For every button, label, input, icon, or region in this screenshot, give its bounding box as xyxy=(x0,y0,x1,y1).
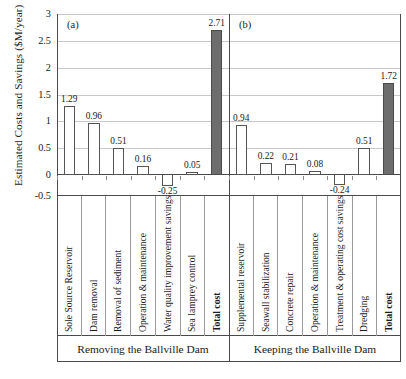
x-axis-tick xyxy=(131,176,132,180)
x-axis-tick xyxy=(229,176,230,180)
category-label: Removal of sediment xyxy=(113,250,123,332)
y-axis-tick: 3 xyxy=(46,9,51,19)
panel-tag: (b) xyxy=(239,19,251,30)
category-label: Supplemental reservoir xyxy=(235,243,245,332)
category-label: Total cost xyxy=(384,293,394,332)
y-axis-tick: 2 xyxy=(46,63,51,73)
x-axis-tick xyxy=(303,176,304,180)
bar-value-label: 0.94 xyxy=(233,114,249,123)
category-label-cell: Concrete repair xyxy=(278,196,303,336)
category-label-grid: Supplemental reservoirSeawall stabilizat… xyxy=(229,196,401,336)
bar xyxy=(309,171,320,175)
bar xyxy=(88,123,99,175)
bar-value-label: 0.51 xyxy=(110,137,126,146)
category-label: Dredging xyxy=(359,296,369,332)
category-label: Sea lamprey control xyxy=(187,255,197,332)
category-label: Water quality improvement savings xyxy=(162,196,172,332)
x-axis-tick xyxy=(106,176,107,180)
category-label-cell: Removal of sediment xyxy=(106,196,131,336)
bar-value-label: 0.22 xyxy=(258,152,274,161)
bar-total xyxy=(211,30,222,175)
bar-value-label: 0.21 xyxy=(282,153,298,162)
bar xyxy=(162,175,173,186)
y-axis-tick: 1.5 xyxy=(38,90,51,100)
category-label-cell: Total cost xyxy=(377,196,401,336)
x-axis-tick xyxy=(180,176,181,180)
bar-value-label: 0.08 xyxy=(307,160,323,169)
bar xyxy=(334,175,345,185)
category-label-cell: Dam removal xyxy=(82,196,107,336)
category-label: Operation & maintenance xyxy=(138,233,148,332)
category-label: Concrete repair xyxy=(285,273,295,332)
bar xyxy=(186,172,197,175)
x-axis-tick xyxy=(82,176,83,180)
bar xyxy=(260,163,271,175)
bar-value-label: 1.29 xyxy=(61,95,77,104)
x-axis-tick xyxy=(278,176,279,180)
panel-caption: Keeping the Ballville Dam xyxy=(229,336,401,362)
category-label-cell: Supplemental reservoir xyxy=(229,196,254,336)
bar-value-label: 0.05 xyxy=(184,161,200,170)
x-axis-tick xyxy=(57,176,58,180)
category-label-cell: Sea lamprey control xyxy=(181,196,206,336)
y-axis-tick: 0.5 xyxy=(38,143,51,153)
category-label-grid: Sole Source ReservoirDam removalRemoval … xyxy=(57,196,229,336)
y-axis-tick-labels: 32.521.510.50-0.5 xyxy=(22,0,54,379)
bar-value-label: 0.51 xyxy=(356,137,372,146)
bar-value-label: 1.72 xyxy=(381,72,397,81)
category-label: Total cost xyxy=(212,293,222,332)
bar xyxy=(285,164,296,175)
category-label-cell: Sole Source Reservoir xyxy=(57,196,82,336)
bar xyxy=(64,106,75,175)
x-axis-tick xyxy=(327,176,328,180)
category-label-cell: Operation & maintenance xyxy=(131,196,156,336)
x-axis-tick xyxy=(254,176,255,180)
bar-value-label: 0.96 xyxy=(86,112,102,121)
category-label: Sole Source Reservoir xyxy=(63,246,73,332)
bar-value-label: -0.25 xyxy=(158,187,178,196)
category-label-cell: Operation & maintenance xyxy=(303,196,328,336)
category-label-cell: Water quality improvement savings xyxy=(156,196,181,336)
category-label-cell: Seawall stabilization xyxy=(254,196,279,336)
y-axis-tick: 1 xyxy=(46,116,51,126)
category-label: Treatment & operating cost savings xyxy=(334,195,344,332)
chart-figure: Estimated Costs and Savings ($M/year) 32… xyxy=(0,0,406,379)
x-axis-tick xyxy=(204,176,205,180)
x-axis-tick xyxy=(352,176,353,180)
bar xyxy=(236,125,247,175)
y-axis-tick: 2.5 xyxy=(38,36,51,46)
bar xyxy=(358,148,369,175)
bar-total xyxy=(383,83,394,175)
y-axis-tick: -0.5 xyxy=(35,191,51,201)
category-label-cell: Total cost xyxy=(205,196,229,336)
y-axis-tick: 0 xyxy=(46,170,51,180)
panel-tag: (a) xyxy=(67,19,79,30)
category-label: Dam removal xyxy=(88,280,98,332)
panel-caption: Removing the Ballville Dam xyxy=(57,336,229,362)
x-axis-tick xyxy=(376,176,377,180)
bar-value-label: 0.16 xyxy=(135,155,151,164)
bar xyxy=(137,166,148,175)
bar-value-label: -0.24 xyxy=(330,186,350,195)
bar xyxy=(113,148,124,175)
category-label: Seawall stabilization xyxy=(260,252,270,332)
category-label-cell: Dredging xyxy=(353,196,378,336)
category-label-cell: Treatment & operating cost savings xyxy=(328,196,353,336)
category-label: Operation & maintenance xyxy=(310,233,320,332)
panel-divider xyxy=(229,14,230,175)
x-axis-tick xyxy=(155,176,156,180)
bar-value-label: 2.71 xyxy=(209,19,225,28)
